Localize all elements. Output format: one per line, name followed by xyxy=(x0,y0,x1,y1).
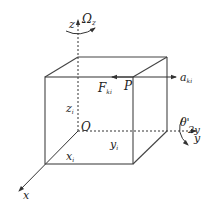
z-axis-label: z xyxy=(68,18,75,31)
omega-z-label: Ωz xyxy=(81,12,96,27)
x-dim-label: xi xyxy=(66,150,74,163)
z-dim-label: zi xyxy=(65,102,74,115)
cube-diagram: z Ωz aki Fki P zi O yi xi x θ' 2y y xyxy=(0,0,215,210)
force-label: Fki xyxy=(97,81,112,95)
acceleration-label: aki xyxy=(180,71,192,84)
cube xyxy=(45,57,167,164)
x-axis-label: x xyxy=(23,189,30,202)
y-dim-label: yi xyxy=(109,138,118,151)
y-axis-label: y xyxy=(193,132,201,145)
point-p-label: P xyxy=(123,79,133,93)
origin-label: O xyxy=(81,120,91,134)
